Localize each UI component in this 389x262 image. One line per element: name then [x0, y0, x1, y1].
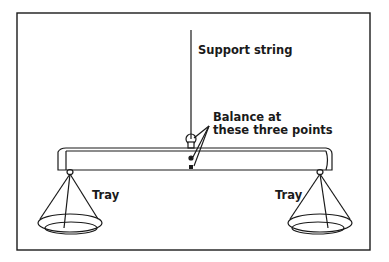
balance-label-line2: these three points [213, 124, 333, 137]
balance-point-bottom [189, 165, 193, 169]
right-tray [288, 174, 352, 234]
tray-label-left: Tray [92, 189, 119, 202]
left-tray [38, 174, 102, 234]
support-string-label: Support string [198, 44, 292, 57]
beam [58, 148, 332, 170]
tray-label-right: Tray [275, 189, 302, 202]
balance-point-top [189, 156, 193, 160]
